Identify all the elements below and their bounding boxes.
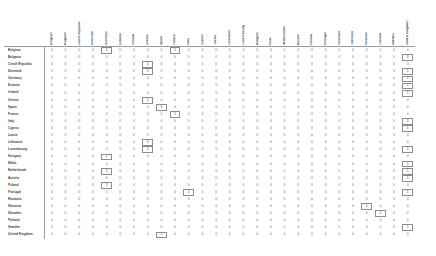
matrix-cell[interactable]: 0 (100, 175, 114, 182)
matrix-cell[interactable]: 0 (223, 161, 237, 168)
row-header-estonia[interactable]: Estonia (4, 82, 45, 89)
row-header-romania[interactable]: Romania (4, 196, 45, 203)
matrix-cell[interactable]: 0 (291, 97, 305, 104)
matrix-cell[interactable]: 0 (168, 210, 182, 217)
matrix-cell[interactable]: 0 (374, 82, 388, 89)
matrix-cell[interactable]: 0 (113, 61, 127, 68)
matrix-cell[interactable]: 0 (237, 168, 251, 175)
row-header-netherlands[interactable]: Netherlands (4, 168, 45, 175)
matrix-cell[interactable]: 0 (319, 189, 333, 196)
matrix-cell[interactable]: 0 (196, 196, 210, 203)
matrix-cell[interactable]: 0 (45, 47, 59, 55)
row-header-belgium[interactable]: Belgium (4, 47, 45, 55)
matrix-cell[interactable]: 0 (319, 111, 333, 118)
matrix-cell[interactable]: 0 (100, 97, 114, 104)
matrix-cell[interactable]: 0 (346, 132, 360, 139)
matrix-cell[interactable]: 0 (72, 132, 86, 139)
matrix-cell[interactable]: 0 (319, 231, 333, 238)
matrix-cell[interactable]: 0 (401, 153, 415, 160)
matrix-cell[interactable]: 0 (127, 153, 141, 160)
matrix-cell[interactable]: 0 (141, 125, 155, 132)
column-header-denmark[interactable]: Denmark (86, 2, 100, 47)
matrix-cell-highlighted[interactable]: 1 (360, 203, 374, 210)
matrix-cell[interactable]: 0 (291, 196, 305, 203)
matrix-cell[interactable]: 0 (168, 231, 182, 238)
matrix-cell[interactable]: 0 (72, 189, 86, 196)
matrix-cell[interactable]: 0 (155, 224, 169, 231)
matrix-cell[interactable]: 0 (113, 203, 127, 210)
matrix-cell[interactable]: 0 (196, 97, 210, 104)
matrix-cell[interactable]: 0 (100, 132, 114, 139)
matrix-cell[interactable]: 0 (346, 217, 360, 224)
column-header-estonia[interactable]: Estonia (113, 2, 127, 47)
matrix-cell[interactable]: 0 (346, 97, 360, 104)
matrix-cell[interactable]: 0 (72, 125, 86, 132)
matrix-cell[interactable]: 0 (72, 68, 86, 75)
matrix-cell[interactable]: 0 (59, 146, 73, 153)
matrix-cell[interactable]: 0 (250, 217, 264, 224)
matrix-cell[interactable]: 0 (332, 132, 346, 139)
matrix-cell[interactable]: 0 (374, 68, 388, 75)
matrix-cell[interactable]: 0 (209, 153, 223, 160)
matrix-cell[interactable]: 0 (305, 203, 319, 210)
matrix-cell[interactable]: 0 (237, 68, 251, 75)
matrix-cell[interactable]: 0 (196, 161, 210, 168)
matrix-cell[interactable]: 0 (264, 47, 278, 55)
matrix-cell[interactable]: 0 (278, 47, 292, 55)
matrix-cell[interactable]: 0 (237, 182, 251, 189)
matrix-cell[interactable]: 0 (387, 146, 401, 153)
matrix-cell[interactable]: 0 (196, 217, 210, 224)
matrix-cell[interactable]: 0 (72, 196, 86, 203)
matrix-cell[interactable]: 0 (237, 217, 251, 224)
matrix-cell[interactable]: 0 (278, 231, 292, 238)
matrix-cell[interactable]: 0 (182, 111, 196, 118)
matrix-cell[interactable]: 0 (155, 61, 169, 68)
matrix-cell[interactable]: 0 (319, 196, 333, 203)
matrix-cell[interactable]: 0 (59, 231, 73, 238)
matrix-cell[interactable]: 0 (59, 139, 73, 146)
matrix-cell[interactable]: 0 (113, 224, 127, 231)
matrix-cell[interactable]: 0 (59, 118, 73, 125)
matrix-cell[interactable]: 0 (374, 132, 388, 139)
matrix-cell[interactable]: 0 (209, 161, 223, 168)
matrix-cell[interactable]: 0 (291, 47, 305, 55)
matrix-cell[interactable]: 0 (360, 161, 374, 168)
matrix-cell[interactable]: 0 (196, 104, 210, 111)
matrix-cell[interactable]: 0 (264, 146, 278, 153)
matrix-cell[interactable]: 0 (141, 82, 155, 89)
matrix-cell[interactable]: 0 (374, 189, 388, 196)
matrix-cell[interactable]: 0 (72, 82, 86, 89)
matrix-cell[interactable]: 0 (223, 104, 237, 111)
matrix-cell[interactable]: 0 (250, 54, 264, 61)
matrix-cell[interactable]: 0 (209, 175, 223, 182)
matrix-cell[interactable]: 0 (401, 104, 415, 111)
matrix-cell[interactable]: 0 (237, 132, 251, 139)
matrix-cell[interactable]: 0 (168, 61, 182, 68)
matrix-cell[interactable]: 0 (250, 82, 264, 89)
matrix-cell[interactable]: 0 (305, 146, 319, 153)
matrix-cell[interactable]: 0 (332, 210, 346, 217)
matrix-cell[interactable]: 0 (155, 146, 169, 153)
matrix-cell[interactable]: 0 (209, 231, 223, 238)
matrix-cell[interactable]: 0 (209, 82, 223, 89)
matrix-cell[interactable]: 0 (155, 90, 169, 97)
matrix-cell[interactable]: 0 (291, 132, 305, 139)
matrix-cell[interactable]: 0 (209, 210, 223, 217)
matrix-cell[interactable]: 0 (319, 104, 333, 111)
matrix-cell[interactable]: 0 (45, 231, 59, 238)
matrix-cell[interactable]: 0 (72, 61, 86, 68)
matrix-cell[interactable]: 0 (250, 224, 264, 231)
matrix-cell[interactable]: 0 (86, 90, 100, 97)
matrix-cell[interactable]: 0 (387, 161, 401, 168)
matrix-cell[interactable]: 0 (387, 111, 401, 118)
matrix-cell[interactable]: 0 (250, 210, 264, 217)
matrix-cell[interactable]: 0 (113, 118, 127, 125)
matrix-cell[interactable]: 0 (374, 231, 388, 238)
matrix-cell[interactable]: 0 (155, 111, 169, 118)
matrix-cell[interactable]: 0 (59, 153, 73, 160)
matrix-cell[interactable]: 0 (209, 125, 223, 132)
matrix-cell[interactable]: 0 (45, 75, 59, 82)
matrix-cell[interactable]: 0 (155, 82, 169, 89)
matrix-cell[interactable]: 0 (196, 68, 210, 75)
matrix-cell[interactable]: 0 (209, 196, 223, 203)
